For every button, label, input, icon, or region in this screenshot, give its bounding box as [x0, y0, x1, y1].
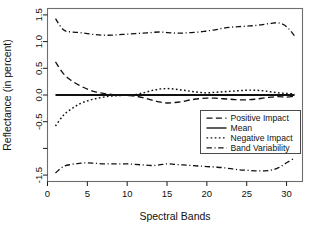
- x-tick-label: 10: [122, 188, 133, 199]
- x-axis-title: Spectral Bands: [139, 210, 210, 222]
- y-tick-label: -1.5: [33, 167, 44, 183]
- x-tick-label: 15: [162, 188, 173, 199]
- legend-label: Negative Impact: [231, 133, 294, 143]
- y-tick-label: 0.5: [33, 62, 44, 75]
- reflectance-line-chart: 051015202530 1.51.00.50.0-0.5-1.5 Spectr…: [0, 0, 319, 227]
- chart-legend: Positive ImpactMeanNegative ImpactBand V…: [201, 111, 301, 154]
- chart-figure: 051015202530 1.51.00.50.0-0.5-1.5 Spectr…: [0, 0, 319, 227]
- legend-label: Positive Impact: [231, 113, 290, 123]
- y-tick-label: 1.5: [33, 8, 44, 21]
- y-tick-label: 0.0: [33, 88, 44, 101]
- y-axis-title: Reflectance (in percent): [1, 39, 13, 150]
- x-tick-label: 25: [241, 188, 252, 199]
- y-tick-label: -0.5: [33, 114, 44, 130]
- y-tick-label: 1.0: [33, 35, 44, 48]
- x-tick-label: 0: [45, 188, 50, 199]
- legend-label: Band Variability: [231, 143, 291, 153]
- x-tick-label: 20: [202, 188, 213, 199]
- x-tick-label: 5: [85, 188, 90, 199]
- x-tick-label: 30: [281, 188, 292, 199]
- legend-label: Mean: [231, 123, 253, 133]
